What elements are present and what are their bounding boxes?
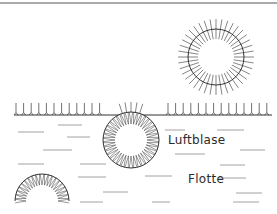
liquid-label: Flotte — [188, 172, 224, 186]
surfactant-bubble-diagram — [0, 0, 277, 214]
liquid-surface-with-surfactant — [14, 103, 272, 115]
bubble-label: Luftblase — [168, 133, 225, 147]
